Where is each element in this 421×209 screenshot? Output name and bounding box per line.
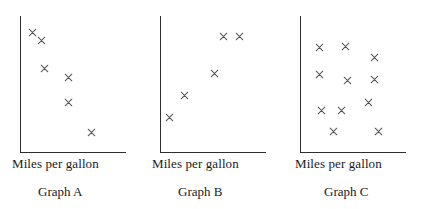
scatter-plot-c (300, 16, 406, 153)
data-point-marker (64, 73, 73, 82)
x-axis-label-c: Miles per gallon (295, 156, 421, 171)
graph-comparison-figure: Miles per gallon Graph A Miles per gallo… (0, 0, 421, 209)
scatter-plot-a (20, 16, 126, 153)
x-axis-label-a: Miles per gallon (12, 156, 140, 171)
data-point-marker (235, 32, 244, 41)
x-axis-label-b: Miles per gallon (152, 156, 280, 171)
data-point-marker (219, 32, 228, 41)
data-point-marker (374, 127, 383, 136)
scatter-plot-b (160, 16, 266, 153)
data-point-marker (210, 69, 219, 78)
data-point-marker (329, 127, 338, 136)
data-point-marker (37, 36, 46, 45)
data-point-marker (165, 113, 174, 122)
data-point-marker (343, 76, 352, 85)
graph-panel-a: Miles per gallon Graph A (0, 0, 140, 209)
data-point-marker (317, 106, 326, 115)
data-point-marker (87, 128, 96, 137)
data-points-a (20, 16, 126, 153)
data-point-marker (315, 70, 324, 79)
data-point-marker (370, 75, 379, 84)
graph-panel-c: Miles per gallon Graph C (280, 0, 421, 209)
data-points-b (160, 16, 266, 153)
data-point-marker (64, 98, 73, 107)
graph-caption-b: Graph B (178, 184, 280, 199)
data-points-c (300, 16, 406, 153)
data-point-marker (337, 106, 346, 115)
data-point-marker (364, 98, 373, 107)
graph-panel-b: Miles per gallon Graph B (140, 0, 280, 209)
data-point-marker (40, 64, 49, 73)
graph-caption-a: Graph A (38, 184, 140, 199)
data-point-marker (315, 43, 324, 52)
data-point-marker (341, 42, 350, 51)
graph-caption-c: Graph C (324, 184, 421, 199)
data-point-marker (180, 91, 189, 100)
data-point-marker (370, 53, 379, 62)
